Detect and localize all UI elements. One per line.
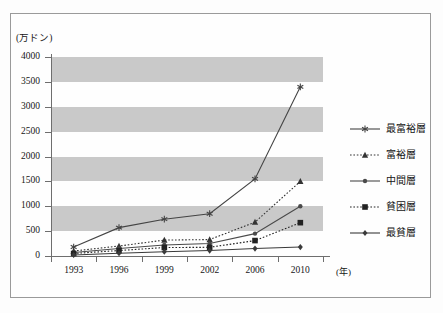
series-line <box>74 87 301 247</box>
series-marker-asterisk <box>252 175 258 182</box>
legend-marker-square-icon <box>349 199 381 211</box>
series-marker-triangle <box>161 237 167 243</box>
legend-label: 最貧層 <box>386 224 416 239</box>
chart-legend: 最富裕層富裕層中間層貧困層最貧層 <box>349 114 437 244</box>
series-marker-asterisk <box>297 83 303 90</box>
series-marker-dot <box>298 204 302 208</box>
legend-item-0[interactable]: 最富裕層 <box>349 114 437 140</box>
series-marker-diamond <box>253 245 258 251</box>
legend-item-3[interactable]: 貧困層 <box>349 192 437 218</box>
legend-marker-diamond-icon <box>349 225 381 237</box>
series-1 <box>71 178 304 254</box>
legend-item-4[interactable]: 最貧層 <box>349 218 437 244</box>
series-4 <box>71 244 303 258</box>
series-marker-dot <box>363 179 367 183</box>
legend-marker-dot-icon <box>349 173 381 185</box>
legend-label: 富裕層 <box>386 146 416 161</box>
series-marker-triangle <box>207 236 213 242</box>
legend-marker-asterisk-icon <box>349 121 381 133</box>
legend-marker-triangle-icon <box>349 147 381 159</box>
legend-label: 中間層 <box>386 172 416 187</box>
legend-item-1[interactable]: 富裕層 <box>349 140 437 166</box>
series-marker-square <box>362 204 368 210</box>
series-marker-square <box>252 238 258 244</box>
legend-label: 最富裕層 <box>386 120 426 135</box>
chart-figure: (万ドン) 05001000150020002500300035004000 1… <box>0 0 443 313</box>
series-marker-dot <box>253 231 257 235</box>
series-marker-diamond <box>298 244 303 250</box>
series-marker-square <box>298 220 304 226</box>
legend-item-2[interactable]: 中間層 <box>349 166 437 192</box>
series-marker-triangle <box>297 178 303 184</box>
series-line <box>74 206 301 252</box>
legend-label: 貧困層 <box>386 198 416 213</box>
series-marker-diamond <box>363 230 368 236</box>
